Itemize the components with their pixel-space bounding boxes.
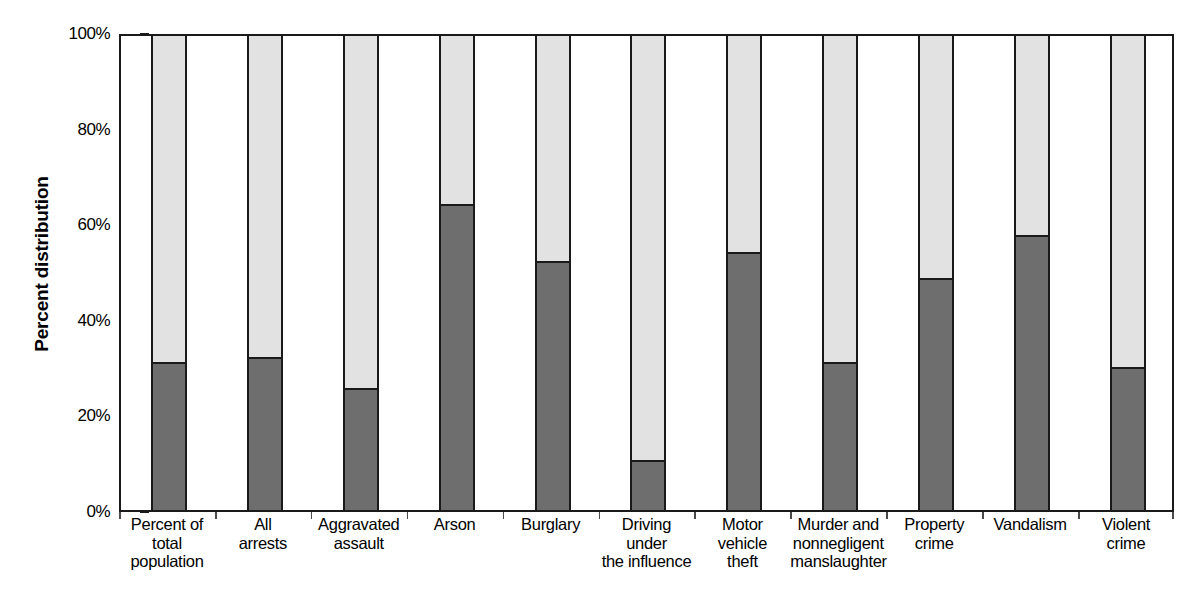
bar-slot [984, 36, 1080, 510]
bar-segment-lower [345, 388, 377, 510]
bar-slot [1080, 36, 1176, 510]
x-tick-label: Motor vehicle theft [694, 515, 790, 571]
bar-segment-lower [728, 252, 760, 510]
bar-segment-lower [824, 362, 856, 510]
y-axis-ticks: 100%80%60%40%20%0% [30, 0, 110, 593]
bar-segment-lower [1016, 235, 1048, 510]
x-tick-label: Murder and nonnegligent manslaughter [790, 515, 886, 571]
stacked-bar[interactable] [726, 36, 762, 510]
bar-slot [888, 36, 984, 510]
bar-segment-lower [537, 261, 569, 510]
bar-slot [601, 36, 697, 510]
x-tick-label: Property crime [886, 515, 982, 552]
x-tick-label: Arson [407, 515, 503, 534]
x-tick-label: All arrests [215, 515, 311, 552]
x-tick-label: Aggravated assault [311, 515, 407, 552]
y-tick-label: 0% [32, 503, 110, 520]
x-tick-label: Percent of total population [119, 515, 215, 571]
stacked-bar[interactable] [918, 36, 954, 510]
bar-segment-lower [153, 362, 185, 510]
y-tick-label: 100% [32, 25, 110, 42]
stacked-bar[interactable] [535, 36, 571, 510]
bar-slot [792, 36, 888, 510]
bar-segment-lower [1112, 367, 1144, 510]
stacked-bar[interactable] [1110, 36, 1146, 510]
stacked-bar[interactable] [247, 36, 283, 510]
x-tick-label: Burglary [503, 515, 599, 534]
y-tick-label: 80% [32, 121, 110, 138]
chart-figure: Percent distribution 100%80%60%40%20%0% … [0, 0, 1195, 593]
bar-slot [505, 36, 601, 510]
plot-area [119, 34, 1174, 512]
stacked-bar[interactable] [630, 36, 666, 510]
stacked-bar[interactable] [439, 36, 475, 510]
bar-slot [409, 36, 505, 510]
x-tick-label: Violent crime [1078, 515, 1174, 552]
bar-slot [217, 36, 313, 510]
stacked-bar[interactable] [1014, 36, 1050, 510]
stacked-bar[interactable] [822, 36, 858, 510]
x-axis-labels: Percent of total populationAll arrestsAg… [119, 515, 1174, 593]
bar-segment-lower [441, 204, 473, 510]
bar-slot [696, 36, 792, 510]
bar-segment-lower [249, 357, 281, 510]
stacked-bar[interactable] [151, 36, 187, 510]
bar-slot [313, 36, 409, 510]
y-tick-label: 60% [32, 216, 110, 233]
bar-segment-lower [920, 278, 952, 510]
y-tick-label: 20% [32, 407, 110, 424]
x-tick-label: Vandalism [982, 515, 1078, 534]
x-tick-label: Driving under the influence [599, 515, 695, 571]
bar-segment-lower [632, 460, 664, 510]
bar-slot [121, 36, 217, 510]
y-tick-label: 40% [32, 312, 110, 329]
stacked-bar[interactable] [343, 36, 379, 510]
